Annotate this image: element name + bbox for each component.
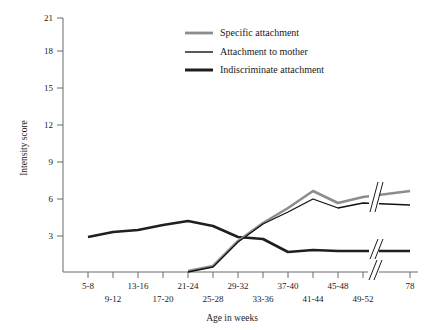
x-tick-label-9-12: 9-12 <box>105 294 122 304</box>
x-tick-label-17-20: 17-20 <box>153 294 174 304</box>
x-axis-title: Age in weeks <box>206 313 258 323</box>
y-tick-label-9: 9 <box>49 157 54 167</box>
y-tick-marks <box>57 18 63 236</box>
legend-label-specific-attachment: Specific attachment <box>220 27 299 38</box>
y-tick-label-21: 21 <box>44 13 53 23</box>
legend-label-attachment-to-mother: Attachment to mother <box>220 46 308 57</box>
x-tick-label-5-8: 5-8 <box>82 281 94 291</box>
x-tick-label-25-28: 25-28 <box>203 294 224 304</box>
chart-legend: Specific attachment Attachment to mother… <box>185 27 324 75</box>
series-line-indiscriminate-attachment <box>88 221 410 252</box>
attachment-intensity-chart: 3 6 9 12 15 18 21 <box>0 0 429 330</box>
axis-break-x-axis <box>368 260 382 280</box>
x-tick-label-45-48: 45-48 <box>328 281 349 291</box>
x-tick-label-78: 78 <box>406 281 416 291</box>
x-tick-label-49-52: 49-52 <box>353 294 374 304</box>
x-tick-label-41-44: 41-44 <box>303 294 324 304</box>
x-tick-label-37-40: 37-40 <box>278 281 299 291</box>
y-tick-label-15: 15 <box>44 83 54 93</box>
axis-break-lower <box>369 239 383 259</box>
x-tick-label-33-36: 33-36 <box>253 294 274 304</box>
y-tick-label-12: 12 <box>44 120 53 130</box>
chart-canvas: 3 6 9 12 15 18 21 <box>0 0 429 330</box>
y-axis-title: Intensity score <box>19 120 29 176</box>
x-tick-marks <box>88 272 410 278</box>
axis-break-upper <box>369 182 383 212</box>
legend-label-indiscriminate-attachment: Indiscriminate attachment <box>220 64 324 75</box>
y-tick-label-18: 18 <box>44 46 54 56</box>
x-tick-label-29-32: 29-32 <box>228 281 249 291</box>
x-tick-label-13-16: 13-16 <box>128 281 149 291</box>
y-tick-label-6: 6 <box>49 194 54 204</box>
x-tick-label-21-24: 21-24 <box>178 281 199 291</box>
y-tick-label-3: 3 <box>49 231 54 241</box>
